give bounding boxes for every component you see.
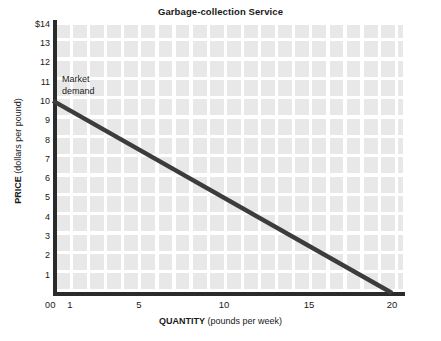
y-tick-label: 11 bbox=[0, 77, 50, 87]
y-tick-label: 4 bbox=[0, 212, 50, 222]
y-tick-label: 12 bbox=[0, 57, 50, 67]
x-tick-label: 5 bbox=[119, 299, 159, 310]
y-axis-line bbox=[53, 20, 57, 296]
y-tick-label: 2 bbox=[0, 250, 50, 260]
y-tick-label: 3 bbox=[0, 231, 50, 241]
y-axis-title-rest: (dollars per pound) bbox=[13, 98, 23, 176]
y-tick-label: 13 bbox=[0, 38, 50, 48]
y-tick-labels: $14 13 12 11 10 9 8 7 6 5 4 3 2 1 0 bbox=[0, 0, 50, 341]
x-axis-title-bold: QUANTITY bbox=[159, 316, 205, 326]
chart-title: Garbage-collection Service bbox=[0, 6, 441, 17]
plot-area bbox=[56, 22, 403, 293]
grid-top-edge bbox=[56, 22, 403, 25]
y-tick-label: 7 bbox=[0, 154, 50, 164]
y-tick-label: 9 bbox=[0, 115, 50, 125]
x-axis-line bbox=[53, 292, 405, 296]
y-tick-label: 10 bbox=[0, 96, 50, 106]
y-tick-label: 8 bbox=[0, 135, 50, 145]
x-tick-label: 10 bbox=[204, 299, 244, 310]
market-demand-annotation: Market demand bbox=[62, 74, 95, 97]
y-tick-label: 1 bbox=[0, 270, 50, 280]
gridlines bbox=[56, 22, 403, 293]
x-tick-label: 20 bbox=[372, 299, 412, 310]
y-tick-label: 6 bbox=[0, 173, 50, 183]
x-axis-title: QUANTITY (pounds per week) bbox=[0, 316, 441, 326]
y-tick-label: $14 bbox=[0, 19, 50, 29]
chart-figure: Garbage-collection Service $14 13 12 11 … bbox=[0, 0, 441, 341]
x-tick-label: 1 bbox=[50, 299, 90, 310]
y-axis-title-bold: PRICE bbox=[13, 176, 23, 204]
x-axis-title-rest: (pounds per week) bbox=[205, 316, 282, 326]
y-axis-title: PRICE (dollars per pound) bbox=[13, 51, 23, 251]
x-tick-label: 15 bbox=[289, 299, 329, 310]
y-tick-label: 5 bbox=[0, 192, 50, 202]
